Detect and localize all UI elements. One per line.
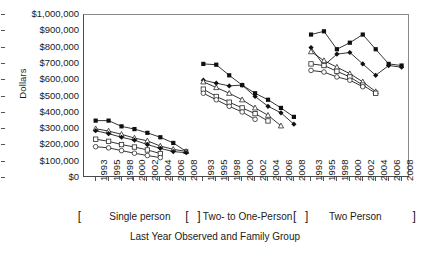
data-point-open-square (93, 137, 97, 141)
data-point-open-square (145, 148, 149, 152)
group-bracket-open: [ (185, 209, 188, 223)
data-point-open-square (322, 63, 326, 67)
data-point-filled-square (348, 41, 352, 45)
data-point-open-square (335, 69, 339, 73)
series-line-series-4 (96, 139, 161, 153)
data-point-open-triangle (321, 58, 326, 63)
data-point-open-circle (360, 84, 365, 89)
data-point-open-circle (309, 68, 314, 73)
y-tick-label: $1,000,000 (7, 9, 79, 18)
group-bracket-open: [ (78, 209, 81, 223)
data-point-filled-square (201, 62, 205, 66)
x-tick-mark (146, 177, 147, 181)
data-point-open-circle (132, 151, 137, 156)
data-point-open-circle (253, 117, 258, 122)
x-tick-mark (267, 177, 268, 181)
y-tick-mark (1, 144, 5, 145)
data-point-open-circle (201, 91, 206, 96)
x-tick-mark (185, 177, 186, 181)
y-tick-label: $400,000 (7, 107, 79, 116)
chart-figure: Dollars $1,000,000$900,000$800,000$700,0… (0, 0, 430, 259)
x-tick-mark (310, 177, 311, 181)
data-point-open-circle (348, 78, 353, 83)
group-bracket-close: ] (413, 209, 416, 223)
data-point-filled-square (322, 29, 326, 33)
group-bracket-open: [ (293, 209, 296, 223)
y-tick-label: $300,000 (7, 123, 79, 132)
y-tick-mark (1, 14, 5, 15)
data-point-open-circle (119, 148, 124, 153)
data-point-filled-square (227, 73, 231, 77)
data-point-filled-square (335, 47, 339, 51)
data-point-filled-square (119, 124, 123, 128)
y-tick-mark (1, 128, 5, 129)
data-point-open-circle (240, 110, 245, 115)
data-point-open-square (266, 119, 270, 123)
x-tick-mark (280, 177, 281, 181)
data-point-open-circle (227, 104, 232, 109)
x-tick-mark (336, 177, 337, 181)
group-label-single-person: Single person (81, 211, 200, 222)
data-point-filled-square (374, 47, 378, 51)
data-point-open-circle (106, 146, 111, 151)
data-point-open-circle (93, 144, 98, 149)
x-tick-mark (349, 177, 350, 181)
y-tick-mark (1, 161, 5, 162)
data-point-filled-square (106, 119, 110, 123)
x-axis-title: Last Year Observed and Family Group (0, 231, 430, 242)
data-point-open-square (253, 111, 257, 115)
series-line-series-4 (203, 89, 268, 121)
x-tick-mark (108, 177, 109, 181)
x-tick-label: 2008 (297, 159, 307, 181)
data-point-filled-square (292, 115, 296, 119)
y-tick-label: $500,000 (7, 91, 79, 100)
y-tick-label: $900,000 (7, 25, 79, 34)
data-point-open-circle (335, 75, 340, 80)
y-tick-mark (1, 30, 5, 31)
y-axis-tick-labels: $1,000,000$900,000$800,000$700,000$600,0… (5, 0, 79, 259)
y-tick-mark (1, 177, 5, 178)
x-tick-mark (362, 177, 363, 181)
series-line-series-5 (96, 147, 161, 158)
data-point-filled-square (214, 63, 218, 67)
data-point-open-triangle (252, 105, 257, 110)
x-tick-mark (388, 177, 389, 181)
data-point-open-triangle (334, 64, 339, 69)
group-label-two-to-one-person: Two- to One-Person (188, 211, 307, 222)
y-tick-label: $0 (7, 172, 79, 181)
y-tick-mark (1, 96, 5, 97)
y-tick-label: $800,000 (7, 42, 79, 51)
x-tick-mark (159, 177, 160, 181)
y-tick-mark (1, 112, 5, 113)
x-tick-mark (375, 177, 376, 181)
data-point-open-square (119, 142, 123, 146)
data-point-open-circle (322, 70, 327, 75)
data-point-open-triangle (278, 123, 283, 128)
y-tick-label: $200,000 (7, 139, 79, 148)
data-point-open-triangle (240, 97, 245, 102)
data-point-open-square (132, 145, 136, 149)
x-tick-mark (401, 177, 402, 181)
data-point-open-circle (214, 97, 219, 102)
data-point-open-square (106, 139, 110, 143)
data-point-open-triangle (265, 112, 270, 117)
data-point-filled-square (279, 106, 283, 110)
x-tick-mark (254, 177, 255, 181)
x-tick-mark (133, 177, 134, 181)
y-tick-label: $700,000 (7, 58, 79, 67)
data-point-filled-square (132, 127, 136, 131)
data-point-filled-square (94, 119, 98, 123)
y-tick-label: $100,000 (7, 156, 79, 165)
data-point-filled-square (309, 32, 313, 36)
x-tick-mark (95, 177, 96, 181)
x-tick-mark (172, 177, 173, 181)
x-tick-label: 2008 (189, 159, 199, 181)
data-point-filled-square (171, 141, 175, 145)
data-point-filled-square (361, 32, 365, 36)
series-canvas (84, 15, 410, 178)
plot-area (83, 14, 409, 177)
x-tick-mark (121, 177, 122, 181)
data-point-open-square (374, 91, 378, 95)
x-tick-mark (293, 177, 294, 181)
x-tick-mark (241, 177, 242, 181)
